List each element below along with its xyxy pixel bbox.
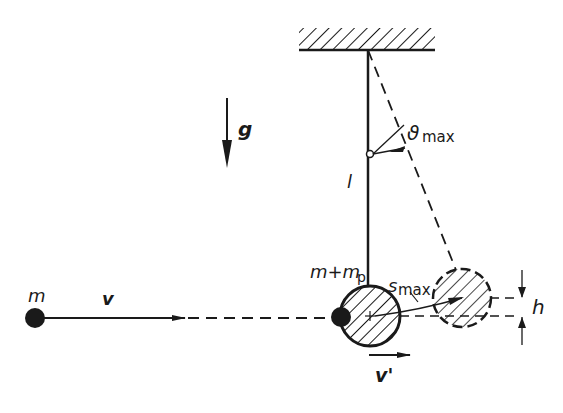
height-marker: h [518, 270, 545, 345]
combined-mass-subscript: p [357, 269, 366, 285]
pendulum-bob-deflected [433, 269, 520, 327]
angle-marker: ϑ max [367, 121, 455, 158]
projectile-mass-label: m [28, 285, 46, 306]
gravity-arrow: g [222, 98, 252, 168]
arc-subscript: max [398, 281, 431, 299]
velocity-label: v [102, 288, 115, 309]
arc-label: s [388, 275, 397, 296]
ceiling-support [299, 28, 435, 50]
angle-subscript: max [422, 128, 455, 146]
velocity-after: v' [369, 355, 410, 386]
length-label: l [347, 171, 352, 192]
gravity-label: g [238, 117, 252, 141]
height-label: h [532, 295, 545, 319]
ballistic-pendulum-diagram: g l ϑ max m v m+m p s [0, 0, 563, 413]
combined-mass-label: m+m [310, 261, 360, 282]
projectile-ball [25, 308, 45, 328]
velocity-after-label: v' [375, 364, 393, 386]
angle-label: ϑ [407, 121, 419, 145]
deflected-rod [368, 50, 456, 270]
